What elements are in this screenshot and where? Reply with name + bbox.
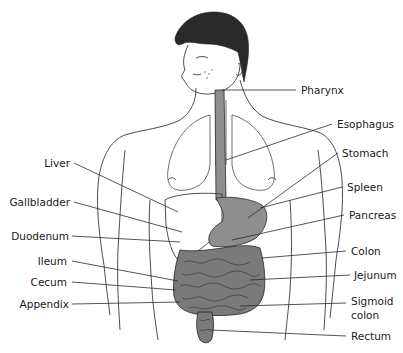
label-appendix: Appendix xyxy=(20,298,69,310)
stomach-organ xyxy=(209,197,267,246)
label-sigmoid-line2: colon xyxy=(351,309,379,321)
leader-liver xyxy=(74,163,178,212)
leader-ileum xyxy=(72,261,178,281)
leader-appendix xyxy=(72,302,180,304)
label-colon: Colon xyxy=(351,245,381,257)
esophagus-organ xyxy=(215,90,226,200)
leader-rectum xyxy=(210,330,346,336)
leader-cecum xyxy=(72,282,176,290)
label-pharynx: Pharynx xyxy=(301,84,344,96)
label-spleen: Spleen xyxy=(347,181,383,193)
label-ileum: Ileum xyxy=(38,255,67,267)
label-duodenum: Duodenum xyxy=(11,230,69,242)
labels-left: Liver Gallbladder Duodenum Ileum Cecum A… xyxy=(9,157,70,310)
head xyxy=(175,12,249,94)
label-sigmoid-line1: Sigmoid xyxy=(351,295,393,307)
label-stomach: Stomach xyxy=(342,147,388,159)
leader-spleen xyxy=(260,187,342,208)
leader-duodenum xyxy=(72,236,180,242)
leader-stomach xyxy=(248,153,338,218)
label-esophagus: Esophagus xyxy=(337,118,394,130)
labels-right: Pharynx Esophagus Stomach Spleen Pancrea… xyxy=(301,84,397,342)
label-gallbladder: Gallbladder xyxy=(9,196,70,208)
label-jejunum: Jejunum xyxy=(353,269,397,281)
leader-colon xyxy=(262,251,346,258)
label-rectum: Rectum xyxy=(351,330,391,342)
label-cecum: Cecum xyxy=(31,276,67,288)
label-pancreas: Pancreas xyxy=(349,209,396,221)
label-liver: Liver xyxy=(44,157,70,169)
digestive-system-diagram: Liver Gallbladder Duodenum Ileum Cecum A… xyxy=(0,0,403,353)
leader-esophagus xyxy=(226,124,332,160)
intestines xyxy=(173,246,264,343)
